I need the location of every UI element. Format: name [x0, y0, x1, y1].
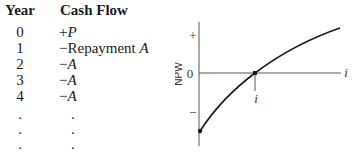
tick-zero: 0: [187, 66, 194, 81]
year-cell: 3: [14, 72, 26, 88]
crossing-label: i: [254, 91, 258, 106]
symbol: A: [67, 72, 76, 88]
tick-plus: +: [189, 28, 196, 43]
npw-curve-plot: + 0 − i i NPW: [175, 0, 352, 155]
ellipsis-dot: .: [71, 136, 75, 152]
text: Repayment: [67, 40, 139, 56]
y-axis-label: NPW: [175, 62, 184, 86]
start-point: [198, 129, 202, 133]
cash-flow-cell: −Repayment A: [59, 40, 149, 56]
npw-curve: [200, 28, 340, 131]
ellipsis-dot: .: [14, 106, 26, 122]
ellipsis-dot: .: [71, 121, 75, 137]
npw-graph: + 0 − i i NPW: [175, 0, 352, 155]
year-cell: 2: [14, 56, 26, 72]
x-axis-label: i: [344, 65, 348, 80]
ellipsis-dot: .: [14, 136, 26, 152]
ellipsis-dot: .: [71, 106, 75, 122]
symbol: A: [67, 56, 76, 72]
symbol: A: [140, 40, 149, 56]
year-cell: 0: [14, 24, 26, 40]
tick-minus: −: [189, 105, 196, 120]
year-cell: 1: [14, 40, 26, 56]
ellipsis-dot: .: [14, 121, 26, 137]
cash-flow-cell: −A: [59, 72, 77, 88]
cash-flow-header: Cash Flow: [60, 2, 128, 19]
cash-flow-cell: −A: [59, 88, 77, 104]
symbol: A: [67, 88, 76, 104]
year-header: Year: [5, 2, 35, 19]
cash-flow-cell: −A: [59, 56, 77, 72]
cash-flow-table: Year Cash Flow 0 +P 1 −Repayment A 2 −A …: [0, 0, 175, 155]
symbol: P: [67, 24, 76, 40]
crossing-point: [253, 71, 257, 75]
cash-flow-cell: +P: [59, 24, 77, 40]
year-cell: 4: [14, 88, 26, 104]
